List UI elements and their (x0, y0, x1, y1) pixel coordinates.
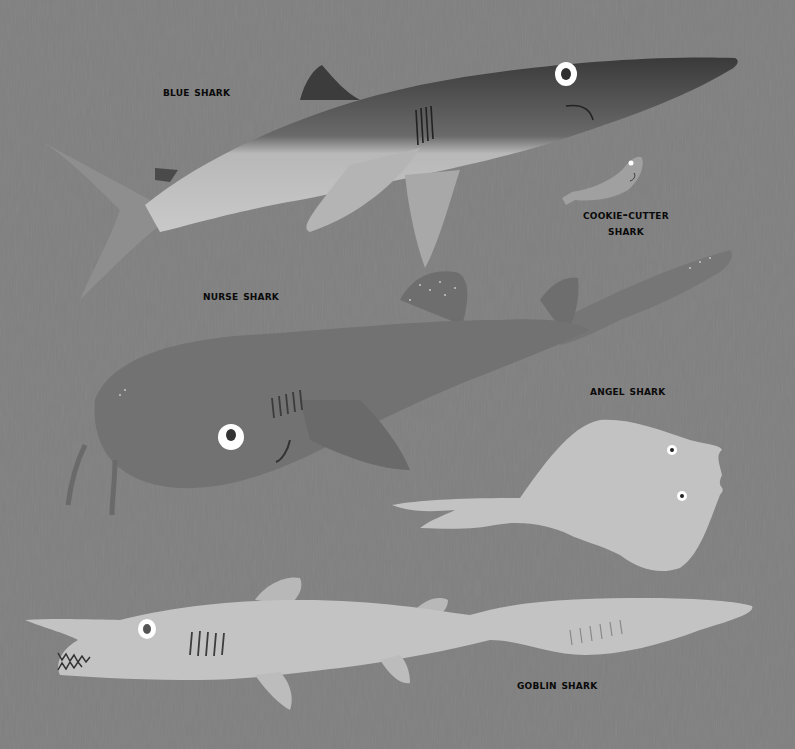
nurse-shark-label: NURSE SHARK (203, 288, 279, 304)
shark-illustration: BLUE SHARK COOKIE-CUTTER SHARK NURSE SHA… (0, 0, 795, 749)
angel-shark-label: ANGEL SHARK (590, 383, 665, 399)
cookie-cutter-shark-eye (629, 161, 634, 166)
cookie-cutter-shark-label: COOKIE-CUTTER SHARK (583, 207, 669, 239)
blue-shark-label: BLUE SHARK (163, 84, 230, 100)
goblin-shark-label: GOBLIN SHARK (517, 677, 597, 693)
illustration-canvas (0, 0, 795, 749)
